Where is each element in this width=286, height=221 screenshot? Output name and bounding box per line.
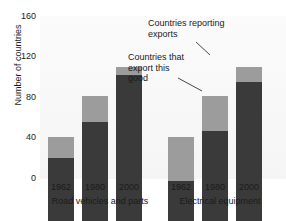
x-tick-road-2000: 2000: [109, 182, 149, 192]
bar-electrical-1980: [202, 42, 228, 221]
annotation-reporting-line1: Countries reporting: [148, 18, 225, 28]
bar-segment-exporting: [82, 122, 108, 221]
annotation-countries-reporting-exports: Countries reporting exports: [148, 18, 244, 39]
bar-segment-reporting: [168, 137, 194, 181]
bar-segment-reporting: [202, 96, 228, 131]
annotation-export-line2: export this: [128, 63, 170, 73]
bar-road-1962: [48, 42, 74, 221]
bar-segment-exporting: [202, 131, 228, 221]
bar-road-1980: [82, 42, 108, 221]
bar-electrical-2000: [236, 42, 262, 221]
y-tick-80: 80: [10, 93, 36, 102]
y-tick-40: 40: [10, 133, 36, 142]
y-tick-160: 160: [10, 12, 36, 21]
bar-chart: Number of countries 160 120 80 40 0 1962…: [0, 0, 286, 221]
annotation-countries-that-export-this-good: Countries that export this good: [128, 52, 190, 84]
y-tick-0: 0: [10, 174, 36, 183]
annotation-reporting-line2: exports: [148, 29, 178, 39]
bar-segment-reporting: [82, 96, 108, 122]
bar-segment-reporting: [48, 137, 74, 158]
annotation-export-line1: Countries that: [128, 52, 184, 62]
annotation-export-line3: good: [128, 73, 148, 83]
y-tick-120: 120: [10, 52, 36, 61]
y-axis-ticks: 160 120 80 40 0: [0, 0, 36, 221]
bar-segment-reporting: [236, 67, 262, 82]
x-tick-electrical-2000: 2000: [229, 182, 269, 192]
group-label-electrical-equipment: Electrical equipment: [155, 196, 285, 206]
